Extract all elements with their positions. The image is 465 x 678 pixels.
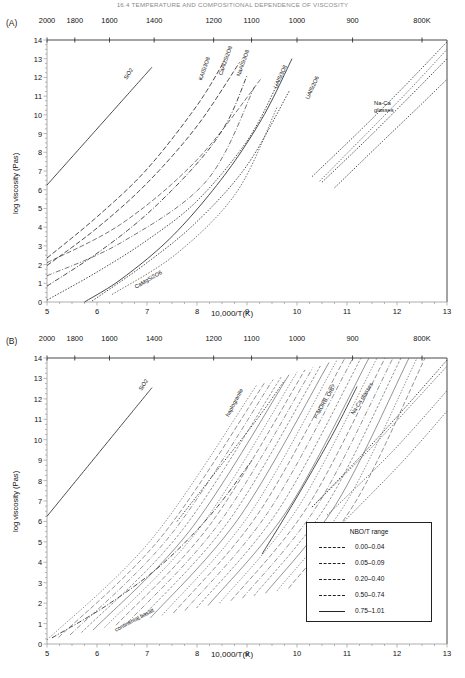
running-head: 16.4 TEMPERATURE AND COMPOSITIONAL DEPEN… [0, 1, 465, 8]
legend-item-label: 0.05–0.09 [355, 559, 384, 566]
panel-b: (B) 2000180016001400120011001000900800K … [0, 332, 465, 672]
panel-a-na-ca-label: Na-Ca glasses [374, 100, 394, 114]
legend-item-label: 0.00–0.04 [355, 543, 384, 550]
legend-line-swatch [319, 595, 345, 597]
legend-item-label: 0.50–0.74 [355, 591, 384, 598]
legend-item-label: 0.20–0.40 [355, 575, 384, 582]
legend-title: NBO/T range [350, 528, 389, 535]
panel-a-plot [0, 14, 465, 324]
legend-line-swatch [319, 547, 345, 549]
legend-box: NBO/T range 0.00–0.040.05–0.090.20–0.400… [306, 522, 432, 622]
legend-line-swatch [319, 579, 345, 581]
legend-line-swatch [319, 611, 345, 613]
legend-item-label: 0.75–1.01 [355, 607, 384, 614]
panel-a: (A) 2000180016001400120011001000900800K … [0, 14, 465, 324]
legend-line-swatch [319, 563, 345, 565]
